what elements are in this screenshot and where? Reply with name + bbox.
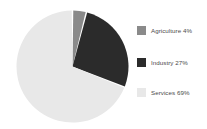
legend-item-services[interactable]: Services 69% — [137, 88, 189, 97]
legend-item-industry[interactable]: Industry 27% — [137, 58, 188, 67]
legend-swatch-services — [137, 88, 146, 97]
legend-label-industry: Industry 27% — [151, 59, 188, 67]
legend-item-agriculture[interactable]: Agriculture 4% — [137, 26, 192, 35]
pie-chart-svg — [16, 10, 129, 123]
legend-swatch-agriculture — [137, 26, 146, 35]
legend-swatch-industry — [137, 58, 146, 67]
pie-chart-figure: Agriculture 4% Industry 27% Services 69% — [0, 0, 207, 129]
legend-label-agriculture: Agriculture 4% — [151, 27, 192, 35]
pie-chart-plot-area — [16, 10, 129, 123]
pie-slice-group — [16, 11, 128, 123]
legend-label-services: Services 69% — [151, 89, 189, 97]
chart-legend: Agriculture 4% Industry 27% Services 69% — [137, 26, 203, 110]
